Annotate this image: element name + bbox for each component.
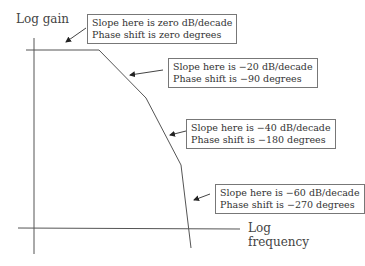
arrow-3	[170, 131, 186, 135]
annotation-slope-text: Slope here is −40 dB/decade	[191, 122, 331, 134]
x-axis	[18, 228, 240, 229]
annotation-phase-text: Phase shift is −270 degrees	[220, 199, 360, 211]
annotation-minus20-slope: Slope here is −20 dB/decade Phase shift …	[168, 58, 318, 88]
annotation-slope-text: Slope here is zero dB/decade	[92, 17, 232, 29]
annotation-minus60-slope: Slope here is −60 dB/decade Phase shift …	[215, 184, 365, 214]
arrow-1	[66, 28, 86, 42]
annotation-phase-text: Phase shift is −180 degrees	[191, 134, 331, 146]
arrow-2	[130, 70, 163, 75]
x-axis-label-line1: Log	[248, 222, 271, 235]
annotation-phase-text: Phase shift is −90 degrees	[173, 73, 313, 85]
annotation-slope-text: Slope here is −20 dB/decade	[173, 61, 313, 73]
x-axis-label-line2: frequency	[248, 236, 309, 249]
annotation-slope-text: Slope here is −60 dB/decade	[220, 187, 360, 199]
annotation-zero-slope: Slope here is zero dB/decade Phase shift…	[87, 14, 237, 44]
y-axis-label: Log gain	[16, 13, 69, 26]
arrow-4	[194, 194, 210, 200]
annotation-phase-text: Phase shift is zero degrees	[92, 29, 232, 41]
annotation-minus40-slope: Slope here is −40 dB/decade Phase shift …	[186, 119, 336, 149]
gain-curve	[26, 50, 191, 248]
